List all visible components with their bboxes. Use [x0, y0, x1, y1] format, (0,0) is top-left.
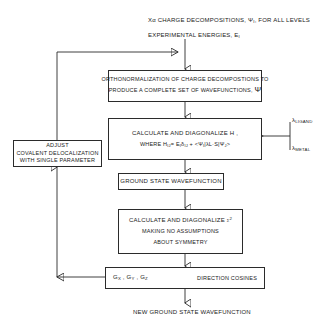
- formula-plus: +: [190, 141, 193, 147]
- node-direction-cosines[interactable]: GX , GY , GZ DIRECTION COSINES: [105, 267, 265, 289]
- orthonormalization-line-2-text: PRODUCE A COMPLETE SET OF WAVEFUNCTIONS,: [109, 87, 253, 93]
- psi-symbol: Ψ: [254, 85, 261, 94]
- g-sub-y: Y: [131, 277, 134, 282]
- formula-ket-close: >: [227, 141, 230, 147]
- output-label: NEW GROUND STATE WAVEFUNCTION: [133, 309, 251, 315]
- energy-subscript-i: I: [239, 34, 240, 39]
- sigma-line-1-text: CALCULATE AND DIAGONALIZE: [129, 217, 225, 223]
- xalpha-decomposition-label: Xα CHARGE DECOMPOSITIONS, Ψ: [148, 17, 253, 23]
- adjust-line-3: WITH SINGLE PARAMETER: [20, 157, 95, 165]
- node-orthonormalization[interactable]: ORTHONORMALIZATION OF CHARGE DECOMPOSTIO…: [108, 70, 262, 102]
- output-new-ground-state-wavefunction: NEW GROUND STATE WAVEFUNCTION: [133, 308, 251, 317]
- direction-cosines-label: DIRECTION COSINES: [197, 275, 257, 281]
- formula-bra: <Ψ: [195, 141, 203, 147]
- input-data-line-2: EXPERIMENTAL ENERGIES, EI: [148, 31, 240, 41]
- lambda-metal-subscript: METAL: [295, 147, 310, 152]
- formula-equals-e: = E: [171, 141, 180, 147]
- adjust-line-2: COVALENT DELOCALIZATION: [16, 150, 98, 158]
- hamiltonian-line-1: CALCULATE AND DIAGONALIZE H ,: [132, 129, 238, 138]
- ground-state-label: GROUND STATE WAVEFUNCTION: [120, 177, 221, 186]
- orthonormalization-line-1: ORTHONORMALIZATION OF CHARGE DECOMPOSTIO…: [101, 76, 268, 84]
- formula-spin-orbit-operator: |λL·S|: [204, 141, 219, 147]
- lambda-metal-input: λMETAL: [292, 144, 310, 154]
- hamiltonian-formula: WHERE HIJ= EIδIJ + <ΨI|λL·S|ΨJ>: [140, 141, 230, 149]
- node-adjust-covalent-delocalization[interactable]: ADJUST COVALENT DELOCALIZATION WITH SING…: [13, 140, 102, 167]
- flowchart-diagram: Xα CHARGE DECOMPOSITIONS, ΨI, FOR ALL LE…: [0, 0, 321, 328]
- g-sub-z: Z: [145, 277, 148, 282]
- formula-h-prefix: WHERE H: [140, 141, 167, 147]
- orthonormalization-line-2: PRODUCE A COMPLETE SET OF WAVEFUNCTIONS,…: [109, 84, 262, 96]
- sigma-line-3: ABOUT SYMMETRY: [153, 239, 207, 247]
- node-hamiltonian[interactable]: CALCULATE AND DIAGONALIZE H , WHERE HIJ=…: [108, 118, 262, 160]
- experimental-energies-label: EXPERIMENTAL ENERGIES, E: [148, 32, 239, 38]
- adjust-line-1: ADJUST: [46, 142, 69, 150]
- node-sigma-squared[interactable]: CALCULATE AND DIAGONALIZE σ2 MAKING NO A…: [118, 209, 243, 254]
- formula-sub-ij-2: IJ: [184, 143, 187, 148]
- for-all-levels-label: , FOR ALL LEVELS: [255, 17, 310, 23]
- sigma-line-1: CALCULATE AND DIAGONALIZE σ2: [129, 216, 232, 225]
- direction-cosines-components: GX , GY , GZ: [113, 274, 148, 281]
- input-data-line-1: Xα CHARGE DECOMPOSITIONS, ΨI, FOR ALL LE…: [148, 16, 310, 26]
- g-sub-x: X: [118, 277, 121, 282]
- node-ground-state-wavefunction[interactable]: GROUND STATE WAVEFUNCTION: [118, 173, 224, 190]
- sigma-line-2: MAKING NO ASSUMPTIONS: [142, 228, 219, 236]
- lambda-ligand-subscript: LIGAND: [295, 119, 312, 124]
- lambda-ligand-input: λLIGAND: [292, 116, 312, 126]
- sigma-exponent: 2: [229, 216, 232, 221]
